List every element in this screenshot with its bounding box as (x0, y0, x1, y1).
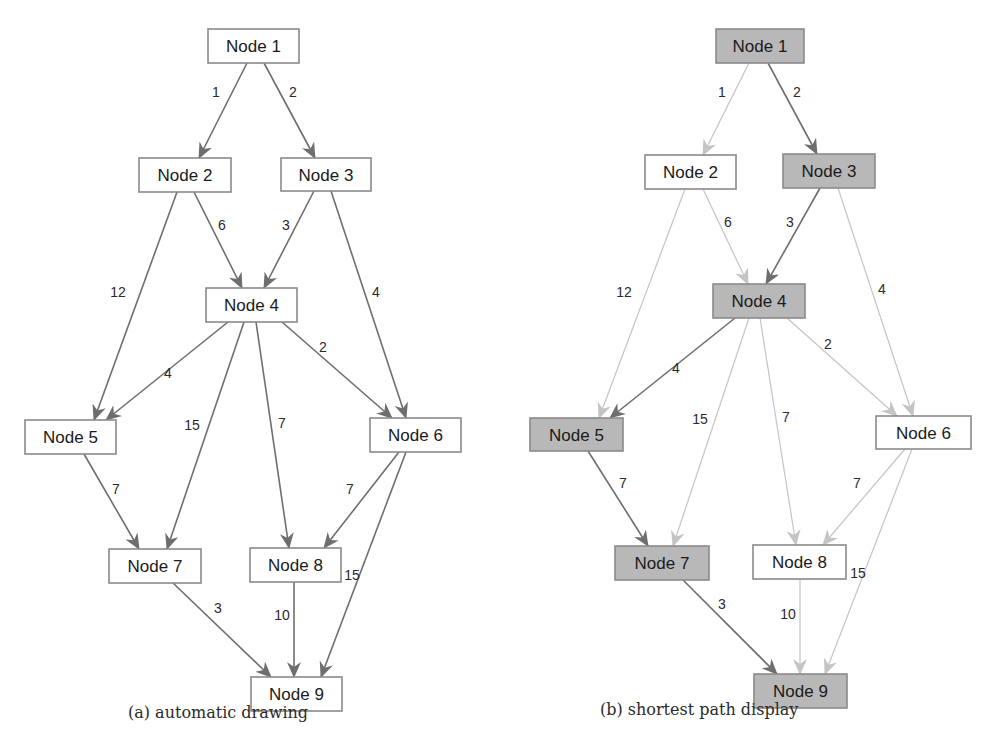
panel-automatic-drawing: 1261234421577715310Node 1Node 2Node 3Nod… (25, 29, 461, 711)
edge-weight-label: 15 (184, 417, 200, 433)
edge-n7-n9: 3 (173, 583, 271, 677)
edge-line (823, 449, 905, 545)
edge-n8-n9: 10 (780, 579, 800, 674)
edge-weight-label: 4 (672, 360, 680, 376)
node-6[interactable]: Node 6 (876, 416, 971, 449)
edge-weight-label: 15 (850, 565, 866, 581)
edge-line (703, 63, 749, 155)
node-3[interactable]: Node 3 (783, 154, 875, 188)
edge-n3-n4: 3 (264, 191, 314, 288)
edge-n3-n4: 3 (766, 188, 820, 284)
edge-n3-n6: 4 (331, 191, 406, 418)
edge-n4-n5: 4 (610, 318, 735, 418)
edge-weight-label: 7 (619, 475, 627, 491)
edge-line (768, 63, 817, 154)
edge-weight-label: 3 (786, 214, 794, 230)
edge-weight-label: 2 (793, 84, 801, 100)
node-3[interactable]: Node 3 (281, 158, 371, 191)
node-label: Node 3 (299, 166, 354, 185)
edge-line (282, 322, 392, 418)
edge-weight-label: 15 (692, 411, 708, 427)
edge-n4-n8: 7 (256, 322, 289, 548)
edge-line (199, 63, 247, 158)
edge-weight-label: 3 (282, 217, 290, 233)
edge-line (264, 191, 314, 288)
node-8[interactable]: Node 8 (250, 548, 341, 582)
edge-weight-label: 3 (718, 596, 726, 612)
node-label: Node 2 (158, 166, 213, 185)
node-label: Node 2 (663, 163, 718, 182)
edge-line (599, 189, 685, 418)
edge-line (703, 189, 748, 284)
edge-weight-label: 1 (718, 84, 726, 100)
node-label: Node 4 (732, 292, 787, 311)
edge-weight-label: 6 (218, 217, 226, 233)
node-6[interactable]: Node 6 (370, 418, 461, 452)
edge-weight-label: 7 (278, 415, 286, 431)
node-label: Node 9 (773, 682, 828, 701)
edge-line (167, 322, 244, 549)
edge-weight-label: 3 (214, 600, 222, 616)
node-label: Node 7 (635, 554, 690, 573)
node-8[interactable]: Node 8 (753, 545, 846, 579)
node-1[interactable]: Node 1 (716, 29, 804, 63)
edge-weight-label: 10 (274, 607, 290, 623)
diagram-canvas: 1261234421577715310Node 1Node 2Node 3Nod… (0, 0, 997, 743)
edge-n4-n6: 2 (787, 318, 897, 416)
edge-line (256, 322, 289, 548)
node-label: Node 6 (388, 426, 443, 445)
edge-n1-n3: 2 (264, 63, 315, 158)
edge-n4-n7: 15 (673, 318, 749, 546)
node-5[interactable]: Node 5 (25, 420, 116, 454)
edge-n1-n2: 1 (199, 63, 247, 158)
edge-weight-label: 2 (319, 339, 327, 355)
node-label: Node 1 (733, 37, 788, 56)
panel-shortest-path-display: 1261234421577715310Node 1Node 2Node 3Nod… (530, 29, 971, 708)
edge-n6-n8: 7 (823, 449, 905, 545)
edge-line (84, 454, 139, 549)
node-5[interactable]: Node 5 (530, 418, 623, 451)
edge-weight-label: 10 (780, 606, 796, 622)
edge-weight-label: 4 (878, 281, 886, 297)
node-2[interactable]: Node 2 (139, 158, 231, 192)
edge-weight-label: 2 (289, 84, 297, 100)
node-4[interactable]: Node 4 (206, 288, 297, 322)
edge-line (331, 191, 406, 418)
edge-n2-n4: 6 (703, 189, 748, 284)
node-label: Node 6 (896, 424, 951, 443)
node-2[interactable]: Node 2 (645, 155, 736, 189)
node-label: Node 8 (772, 553, 827, 572)
edge-line (264, 63, 315, 158)
edge-weight-label: 7 (853, 475, 861, 491)
edge-weight-label: 7 (112, 481, 120, 497)
edge-n3-n6: 4 (838, 188, 913, 416)
edge-line (760, 318, 796, 545)
edge-weight-label: 6 (724, 214, 732, 230)
node-1[interactable]: Node 1 (208, 29, 299, 63)
node-7[interactable]: Node 7 (615, 546, 709, 580)
edge-n1-n3: 2 (768, 63, 817, 154)
edge-weight-label: 7 (782, 409, 790, 425)
node-label: Node 8 (268, 556, 323, 575)
edge-weight-label: 15 (344, 567, 360, 583)
caption-automatic-drawing: (a) automatic drawing (128, 703, 308, 722)
edge-n4-n7: 15 (167, 322, 244, 549)
node-label: Node 5 (549, 426, 604, 445)
node-4[interactable]: Node 4 (713, 284, 805, 318)
node-label: Node 4 (224, 296, 279, 315)
edge-n2-n4: 6 (194, 192, 242, 288)
edge-n7-n9: 3 (683, 580, 777, 674)
edge-n1-n2: 1 (703, 63, 749, 155)
edge-line (94, 192, 177, 420)
node-label: Node 7 (128, 557, 183, 576)
edge-weight-label: 7 (346, 481, 354, 497)
node-label: Node 1 (226, 37, 281, 56)
edge-n8-n9: 10 (274, 582, 294, 677)
edge-weight-label: 12 (110, 284, 126, 300)
node-7[interactable]: Node 7 (109, 549, 201, 583)
edge-line (838, 188, 913, 416)
edge-n5-n7: 7 (84, 454, 139, 549)
edge-n4-n6: 2 (282, 322, 392, 418)
node-label: Node 9 (269, 685, 324, 704)
edge-weight-label: 4 (372, 284, 380, 300)
